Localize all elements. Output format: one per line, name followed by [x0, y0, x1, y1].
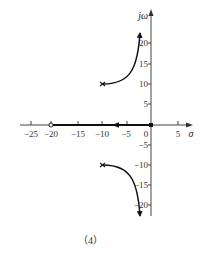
figure-caption: （4）: [0, 232, 205, 247]
y-tick-label: −5: [138, 140, 148, 150]
x-tick-label: −15: [71, 129, 86, 139]
sigma-axis-label: σ: [189, 128, 195, 139]
y-tick-label: 15: [139, 59, 149, 69]
x-tick-label: −5: [121, 129, 131, 139]
x-tick-label: −25: [24, 129, 39, 139]
x-tick-label: −20: [44, 129, 59, 139]
root-locus-plot: −25 −20 −15 −10 −5 0 5 σ 20 15 10 5 −5 −…: [0, 0, 205, 254]
pole-origin: [149, 123, 153, 127]
y-tick-label: −20: [134, 200, 149, 210]
y-tick-label: 10: [139, 79, 149, 89]
zero-marker: [49, 123, 53, 127]
upper-complex-branch: [103, 33, 140, 84]
sigma-axis-arrow-icon: [186, 123, 193, 128]
jw-axis-arrow-icon: [149, 9, 154, 16]
y-tick-label: 5: [144, 99, 149, 109]
x-tick-label: −10: [95, 129, 110, 139]
x-tick-labels: −25 −20 −15 −10 −5 0 5 σ: [24, 128, 195, 139]
caption-text: （4）: [78, 235, 103, 246]
x-tick-label: 5: [176, 129, 181, 139]
y-tick-label: 20: [139, 38, 149, 48]
branch-arrow-icon: [112, 122, 119, 127]
y-tick-label: −10: [134, 160, 149, 170]
y-tick-labels: 20 15 10 5 −5 −10 −15 −20 jω: [134, 10, 149, 210]
jw-axis-label: jω: [136, 10, 148, 21]
x-tick-label: 0: [144, 129, 149, 139]
